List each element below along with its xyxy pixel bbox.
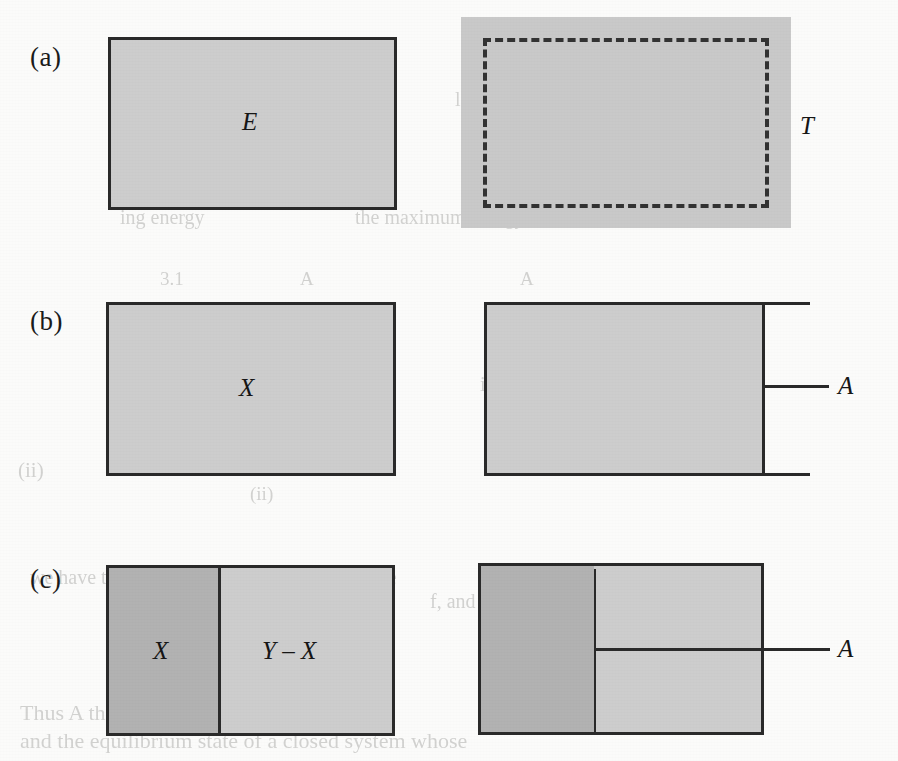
panel-a-dashed-boundary xyxy=(483,38,769,208)
label-E: E xyxy=(242,108,257,136)
label-A-c: A xyxy=(838,635,853,663)
bleed-line: (ii) xyxy=(250,483,273,505)
bleed-line: A xyxy=(300,268,314,290)
panel-b-pointer-line xyxy=(762,385,829,388)
panel-c-left-divider xyxy=(218,568,221,733)
panel-b-right-left-edge xyxy=(484,302,487,476)
panel-label-b: (b) xyxy=(30,306,63,337)
panel-c-right-divider xyxy=(594,569,596,732)
bleed-line: (ii) xyxy=(18,458,44,483)
bleed-line: A xyxy=(520,268,534,290)
panel-b-right-region xyxy=(487,305,763,473)
panel-label-a: (a) xyxy=(30,42,61,73)
label-X-b: X xyxy=(239,374,254,402)
panel-label-c: (c) xyxy=(30,564,61,595)
panel-c-right-subregion-X xyxy=(481,566,594,732)
label-A-b: A xyxy=(838,372,853,400)
label-Y-minus-X: Y – X xyxy=(262,637,316,665)
bleed-line: 3.1 xyxy=(160,268,184,290)
panel-b-right-bottom-edge xyxy=(484,473,810,476)
panel-b-right-inner-boundary xyxy=(762,305,765,473)
panel-c-pointer-line xyxy=(594,648,830,651)
figure-page: ing energy the maximum energy, to lar ga… xyxy=(0,0,898,761)
label-T: T xyxy=(800,112,814,140)
label-X-c: X xyxy=(153,637,168,665)
